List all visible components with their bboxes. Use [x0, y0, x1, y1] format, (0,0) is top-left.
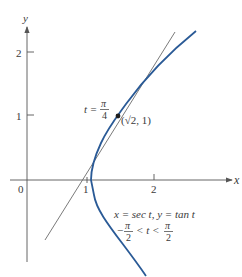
svg-text:π: π: [165, 220, 171, 231]
domain-label: − π 2 < t < π 2: [117, 220, 173, 243]
svg-text:2: 2: [126, 232, 131, 243]
svg-text:t =: t =: [84, 103, 97, 115]
x-tick-label-1: 1: [83, 183, 89, 195]
x-tick-label-2: 2: [151, 183, 157, 195]
svg-text:2: 2: [166, 232, 171, 243]
equation-label: x = sec t, y = tan t: [113, 208, 196, 220]
y-tick-label-1: 1: [16, 110, 22, 122]
svg-text:π: π: [101, 98, 107, 109]
point-label: (√2, 1): [121, 114, 151, 127]
hyperbola-curve: [91, 31, 196, 276]
y-tick-label-2: 2: [16, 47, 22, 59]
x-axis-label: x: [233, 173, 240, 187]
svg-text:−: −: [117, 224, 123, 236]
svg-text:π: π: [125, 220, 131, 231]
parametric-hyperbola-figure: x y 0 1 2 1 2 (√2, 1) t = π 4 x = sec t,…: [0, 0, 242, 277]
y-axis-label: y: [22, 12, 28, 24]
parameter-label: t = π 4: [84, 98, 109, 121]
tangency-point: [116, 114, 121, 119]
origin-label: 0: [18, 183, 24, 195]
svg-text:4: 4: [102, 110, 107, 121]
svg-text:< t <: < t <: [136, 224, 159, 236]
